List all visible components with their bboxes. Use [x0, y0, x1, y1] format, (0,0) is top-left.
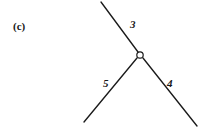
- panel-label: (c): [13, 21, 25, 32]
- branch-label-4: 4: [167, 78, 173, 89]
- branch-line-5: [84, 58, 137, 122]
- figure-panel-c: (c) 3 5 4: [0, 0, 198, 127]
- junction-node-icon: [137, 52, 143, 58]
- figure-diagram-canvas: [0, 0, 198, 127]
- branch-label-5: 5: [103, 78, 109, 89]
- branch-line-4: [143, 58, 197, 126]
- branch-label-3: 3: [130, 19, 136, 30]
